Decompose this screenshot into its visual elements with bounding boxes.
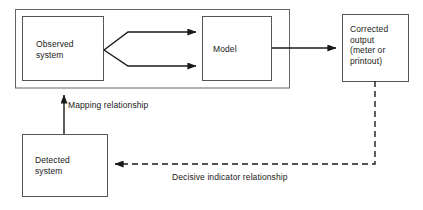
observed-to-model-upper-arrow (104, 32, 196, 50)
decisive-indicator-relationship-label: Decisive indicator relationship (172, 172, 288, 183)
mapping-relationship-label: Mapping relationship (68, 100, 148, 111)
diagram-canvas: Observed system Model Corrected output (… (0, 0, 423, 210)
decisive-indicator-relationship-arrow (115, 81, 375, 164)
corrected-output-label: Corrected output (meter or printout) (350, 24, 408, 66)
observed-to-model-lower-arrow (104, 50, 196, 66)
detected-system-label: Detected system (35, 155, 95, 176)
model-label: Model (213, 44, 263, 55)
observed-system-label: Observed system (36, 39, 94, 60)
